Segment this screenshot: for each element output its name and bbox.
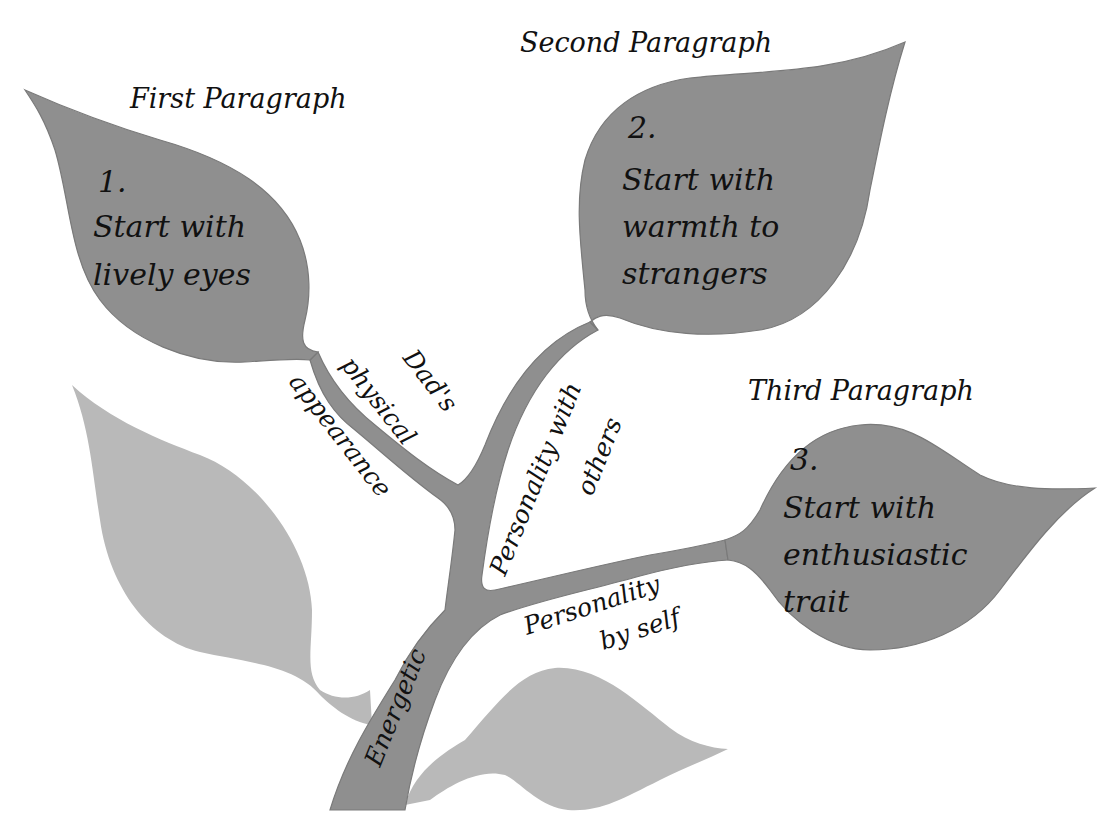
leaf-2-line-2: warmth to xyxy=(622,209,779,244)
idea-tree-diagram: First Paragraph Second Paragraph Third P… xyxy=(0,0,1117,838)
physical-line-1: Dad's xyxy=(397,343,464,417)
leaf-1-line-2: lively eyes xyxy=(93,257,251,292)
leaf-3-line-3: trait xyxy=(783,584,850,619)
leaf-3-line-1: Start with xyxy=(783,490,936,525)
leaf-2-number: 2. xyxy=(627,110,657,145)
heading-first-paragraph: First Paragraph xyxy=(129,83,347,114)
leaf-3-line-2: enthusiastic xyxy=(783,537,968,572)
leaf-1-line-1: Start with xyxy=(93,209,246,244)
others-line-2: others xyxy=(571,413,628,499)
light-leaf-bottom xyxy=(405,668,728,810)
leaf-3-number: 3. xyxy=(790,442,819,477)
heading-third-paragraph: Third Paragraph xyxy=(748,375,974,406)
heading-second-paragraph: Second Paragraph xyxy=(520,27,772,58)
leaf-2-line-3: strangers xyxy=(622,256,768,291)
leaf-2-line-1: Start with xyxy=(622,162,775,197)
leaf-1-number: 1. xyxy=(98,164,127,199)
